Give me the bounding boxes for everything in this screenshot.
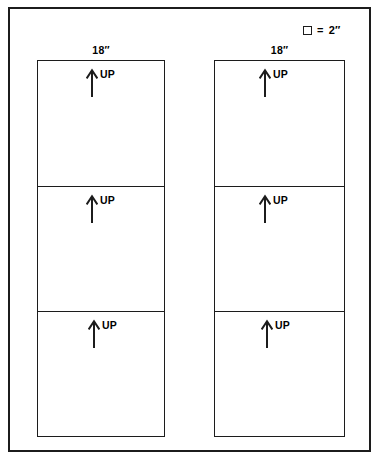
up-marker-right-top: UP <box>259 68 288 97</box>
up-label-right-middle: UP <box>273 195 288 206</box>
panel-column-left: 18″ UP UP <box>37 60 165 437</box>
arrow-up-icon <box>88 319 100 348</box>
panel-stack-left: UP UP UP <box>37 60 165 437</box>
panel-stack-right: UP UP UP <box>214 60 345 437</box>
arrow-up-icon <box>86 194 98 223</box>
panel-column-right: 18″ UP UP <box>214 60 345 437</box>
panel-right-bottom[interactable]: UP <box>215 311 344 434</box>
arrow-up-icon <box>86 68 98 97</box>
column-width-label-left: 18″ <box>37 44 165 56</box>
up-marker-left-middle: UP <box>86 194 115 223</box>
legend-equals-sign: = <box>317 24 324 36</box>
arrow-up-icon <box>259 68 271 97</box>
panel-left-middle[interactable]: UP <box>38 186 164 311</box>
square-outline-icon <box>303 26 312 35</box>
up-label-left-bottom: UP <box>102 320 117 331</box>
panel-left-bottom[interactable]: UP <box>38 311 164 434</box>
up-label-right-bottom: UP <box>275 320 290 331</box>
diagram-canvas: = 2″ 18″ UP <box>0 0 384 460</box>
up-label-right-top: UP <box>273 69 288 80</box>
legend: = 2″ <box>303 24 340 36</box>
panel-right-middle[interactable]: UP <box>215 186 344 311</box>
arrow-up-icon <box>261 319 273 348</box>
legend-value-label: 2″ <box>329 24 341 36</box>
panel-right-top[interactable]: UP <box>215 61 344 186</box>
column-width-label-right: 18″ <box>214 44 345 56</box>
arrow-up-icon <box>259 194 271 223</box>
up-marker-right-bottom: UP <box>261 319 290 348</box>
up-marker-left-top: UP <box>86 68 115 97</box>
up-label-left-middle: UP <box>100 195 115 206</box>
up-marker-left-bottom: UP <box>88 319 117 348</box>
panel-left-top[interactable]: UP <box>38 61 164 186</box>
up-label-left-top: UP <box>100 69 115 80</box>
up-marker-right-middle: UP <box>259 194 288 223</box>
